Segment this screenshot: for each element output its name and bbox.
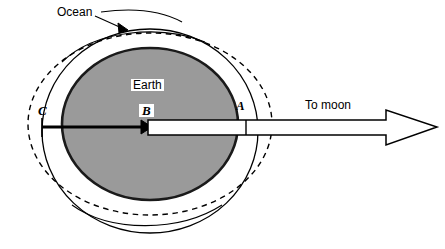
to-moon-label: To moon (305, 99, 351, 111)
point-b-label: B (139, 104, 154, 117)
ocean-label: Ocean (57, 6, 92, 18)
point-a-label: A (236, 99, 245, 112)
point-c-label: C (38, 104, 47, 117)
ocean-leader-line (101, 10, 182, 22)
figure-canvas (0, 0, 445, 249)
tidal-bulge-figure: Ocean Earth B A C To moon (0, 0, 445, 249)
earth-label: Earth (131, 79, 164, 91)
ocean-leader-stem (95, 16, 126, 30)
